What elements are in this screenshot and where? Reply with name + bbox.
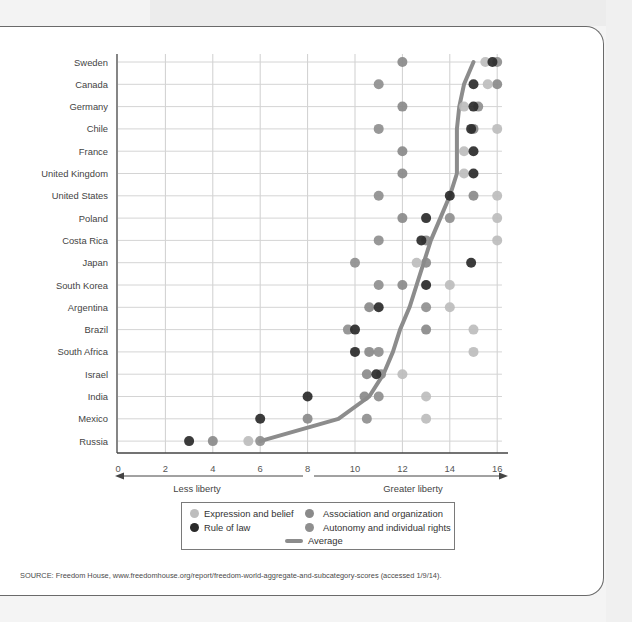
data-point (492, 191, 502, 201)
data-point (416, 235, 426, 245)
data-point (466, 258, 476, 268)
data-point (303, 414, 313, 424)
data-point (303, 392, 313, 402)
data-point (364, 347, 374, 357)
legend-label: Expression and belief (204, 508, 294, 519)
data-point (492, 124, 502, 134)
category-label: South Korea (56, 280, 109, 291)
data-point (421, 414, 431, 424)
data-point (412, 258, 422, 268)
category-label: France (79, 146, 108, 157)
category-label: Germany (69, 101, 108, 112)
data-point (243, 436, 253, 446)
data-point (350, 325, 360, 335)
x-tick-label: 2 (163, 463, 168, 474)
legend-item-autonomy: Autonomy and individual rights (305, 522, 451, 533)
data-point (397, 57, 407, 67)
category-label: Argentina (68, 302, 109, 313)
category-label: Chile (87, 123, 108, 134)
category-label: United Kingdom (41, 168, 108, 179)
category-label: Canada (75, 79, 109, 90)
greater-liberty-label: Greater liberty (383, 483, 443, 494)
data-point (374, 392, 384, 402)
less-liberty-label: Less liberty (173, 483, 221, 494)
data-point (374, 124, 384, 134)
data-point (492, 235, 502, 245)
data-point (421, 258, 431, 268)
data-point (421, 325, 431, 335)
data-point (255, 414, 265, 424)
data-point (469, 347, 479, 357)
data-point (374, 280, 384, 290)
data-point (397, 169, 407, 179)
arrow-right-icon (499, 473, 508, 480)
category-label: Poland (79, 213, 108, 224)
legend-line-icon (285, 539, 303, 543)
data-point (466, 124, 476, 134)
data-point (350, 258, 360, 268)
data-point (397, 369, 407, 379)
data-point (469, 191, 479, 201)
legend-dot-icon (190, 523, 199, 532)
legend-item-association: Association and organization (305, 508, 443, 519)
data-point (371, 369, 381, 379)
legend-item-rule: Rule of law (190, 522, 250, 533)
data-point (374, 302, 384, 312)
data-point (459, 146, 469, 156)
data-point (350, 347, 360, 357)
data-point (421, 392, 431, 402)
category-label: United States (52, 190, 109, 201)
x-tick-label: 10 (350, 463, 360, 474)
chart-legend: Expression and belief Association and or… (181, 502, 455, 550)
legend-label: Autonomy and individual rights (323, 522, 451, 533)
data-point (459, 102, 469, 112)
x-tick-label: 12 (397, 463, 407, 474)
data-point (459, 169, 469, 179)
data-point (374, 347, 384, 357)
data-point (421, 280, 431, 290)
data-point (397, 102, 407, 112)
data-point (397, 146, 407, 156)
x-tick-label: 14 (445, 463, 455, 474)
x-tick-label: 0 (115, 463, 120, 474)
data-point (445, 213, 455, 223)
data-point (255, 436, 265, 446)
category-label: India (88, 391, 109, 402)
data-point (469, 325, 479, 335)
data-point (469, 146, 479, 156)
source-note: SOURCE: Freedom House, www.freedomhouse.… (20, 571, 441, 580)
x-tick-label: 6 (258, 463, 263, 474)
data-point (483, 79, 493, 89)
category-label: Mexico (78, 413, 108, 424)
data-point (469, 79, 479, 89)
x-tick-label: 16 (492, 463, 502, 474)
category-label: Japan (82, 257, 108, 268)
legend-label: Association and organization (323, 508, 443, 519)
category-label: South Africa (57, 346, 108, 357)
average-line (260, 62, 473, 441)
data-point (362, 369, 372, 379)
legend-item-average: Average (285, 535, 343, 546)
data-point (374, 191, 384, 201)
data-point (359, 392, 369, 402)
legend-dot-icon (305, 509, 314, 518)
category-label: Sweden (74, 57, 108, 68)
data-point (492, 79, 502, 89)
data-point (421, 302, 431, 312)
data-point (184, 436, 194, 446)
data-point (445, 280, 455, 290)
data-point (492, 213, 502, 223)
legend-label: Average (308, 535, 343, 546)
x-tick-label: 8 (305, 463, 310, 474)
data-point (469, 102, 479, 112)
data-point (374, 79, 384, 89)
category-label: Israel (85, 369, 108, 380)
data-point (487, 57, 497, 67)
data-point (374, 235, 384, 245)
data-point (421, 213, 431, 223)
category-label: Russia (79, 436, 108, 447)
data-point (208, 436, 218, 446)
legend-dot-icon (305, 523, 314, 532)
category-label: Brazil (85, 324, 108, 335)
data-point (445, 191, 455, 201)
